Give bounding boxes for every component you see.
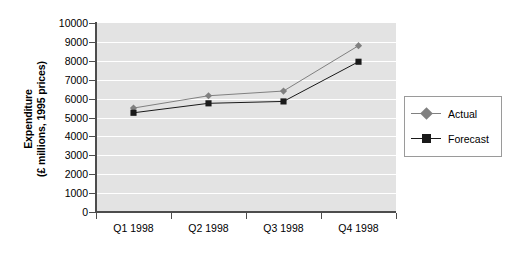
x-axis-tick-label: Q1 1998: [113, 222, 153, 234]
legend-item-forecast: Forecast: [405, 128, 501, 150]
plot-area: [96, 23, 396, 212]
legend-swatch-actual: [411, 107, 441, 121]
gridline: [96, 193, 396, 194]
diamond-marker-icon: [420, 107, 433, 120]
legend-swatch-forecast: [411, 132, 441, 146]
x-axis-tick: [246, 213, 247, 219]
y-axis-tick: [89, 118, 96, 119]
y-axis-tick-label: 4000: [65, 130, 88, 142]
gridline: [96, 42, 396, 43]
y-axis-tick-label: 0: [82, 206, 88, 218]
square-marker-icon: [422, 134, 431, 143]
y-axis-tick: [89, 99, 96, 100]
x-axis-tick-label: Q4 1998: [338, 222, 378, 234]
x-axis-tick: [321, 213, 322, 219]
x-axis-tick: [96, 213, 97, 219]
y-axis-tick-label: 9000: [65, 36, 88, 48]
y-axis-tick: [89, 61, 96, 62]
x-axis-tick-label: Q2 1998: [188, 222, 228, 234]
y-axis-tick: [89, 80, 96, 81]
y-axis-tick: [89, 193, 96, 194]
legend-label-actual: Actual: [448, 108, 477, 120]
y-axis-tick: [89, 212, 96, 213]
gridline: [96, 136, 396, 137]
y-axis-tick-labels: 1000090008000700060005000400030002000100…: [20, 16, 92, 212]
y-axis-tick-label: 7000: [65, 74, 88, 86]
gridline: [96, 155, 396, 156]
y-axis-tick: [89, 174, 96, 175]
y-axis-tick: [89, 23, 96, 24]
line-chart: Expenditure (£ millions, 1995 prices) 10…: [0, 0, 508, 255]
x-axis-tick: [171, 213, 172, 219]
x-axis-tick-labels: Q1 1998Q2 1998Q3 1998Q4 1998: [96, 222, 396, 238]
y-axis-tick: [89, 155, 96, 156]
y-axis-tick-label: 6000: [65, 93, 88, 105]
y-axis-tick-label: 3000: [65, 149, 88, 161]
x-axis-tick: [396, 213, 397, 219]
legend-label-forecast: Forecast: [448, 133, 489, 145]
gridline: [96, 80, 396, 81]
y-axis-tick-label: 1000: [65, 187, 88, 199]
y-axis-tick-label: 5000: [65, 112, 88, 124]
y-axis-tick: [89, 42, 96, 43]
y-axis-tick: [89, 136, 96, 137]
legend: Actual Forecast: [404, 96, 502, 157]
y-axis-tick-label: 10000: [59, 17, 88, 29]
gridline: [96, 99, 396, 100]
x-axis-tick-label: Q3 1998: [263, 222, 303, 234]
y-axis-tick-label: 8000: [65, 55, 88, 67]
legend-item-actual: Actual: [405, 103, 501, 125]
y-axis-tick-label: 2000: [65, 168, 88, 180]
gridline: [96, 61, 396, 62]
gridline: [96, 174, 396, 175]
gridline: [96, 118, 396, 119]
